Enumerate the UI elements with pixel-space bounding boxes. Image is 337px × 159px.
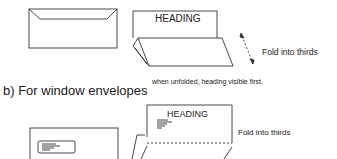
unfold-note: when unfolded, heading visible first. [152, 78, 263, 85]
fold-arrow-icon [240, 33, 254, 64]
section-b-title: b) For window envelopes [3, 83, 148, 98]
heading-label-a: HEADING [155, 13, 201, 24]
envelope-icon [29, 9, 117, 48]
fold-instruction-b: Fold into thirds [238, 128, 290, 137]
fold-instruction-a: Fold into thirds [262, 47, 318, 57]
window-envelope-icon [30, 128, 118, 159]
heading-label-b: HEADING [167, 109, 208, 119]
